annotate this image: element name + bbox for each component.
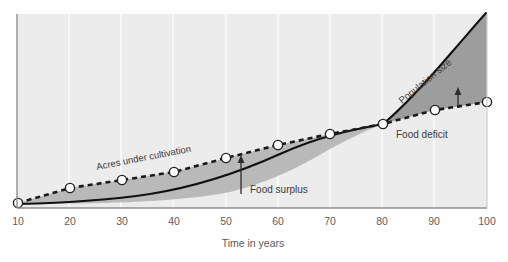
chart-figure: Food surplus Food deficit Acres under cu… — [0, 0, 508, 262]
marker-10 — [13, 198, 22, 207]
x-tick-60: 60 — [272, 215, 284, 227]
marker-50 — [221, 153, 230, 162]
food-deficit-label: Food deficit — [396, 129, 448, 140]
x-axis-title: Time in years — [222, 237, 285, 249]
x-tick-100: 100 — [478, 215, 496, 227]
marker-80 — [378, 119, 387, 128]
marker-70 — [325, 129, 334, 138]
marker-40 — [169, 167, 178, 176]
food-surplus-label: Food surplus — [250, 184, 308, 195]
marker-60 — [273, 140, 282, 149]
x-tick-90: 90 — [428, 215, 440, 227]
x-tick-50: 50 — [220, 215, 232, 227]
x-tick-70: 70 — [324, 215, 336, 227]
x-tick-40: 40 — [168, 215, 180, 227]
marker-90 — [430, 105, 439, 114]
x-tick-30: 30 — [116, 215, 128, 227]
marker-20 — [65, 183, 74, 192]
x-tick-80: 80 — [376, 215, 388, 227]
chart-svg: Food surplus Food deficit Acres under cu… — [0, 0, 508, 262]
x-tick-10: 10 — [12, 215, 24, 227]
x-tick-20: 20 — [64, 215, 76, 227]
marker-30 — [117, 175, 126, 184]
